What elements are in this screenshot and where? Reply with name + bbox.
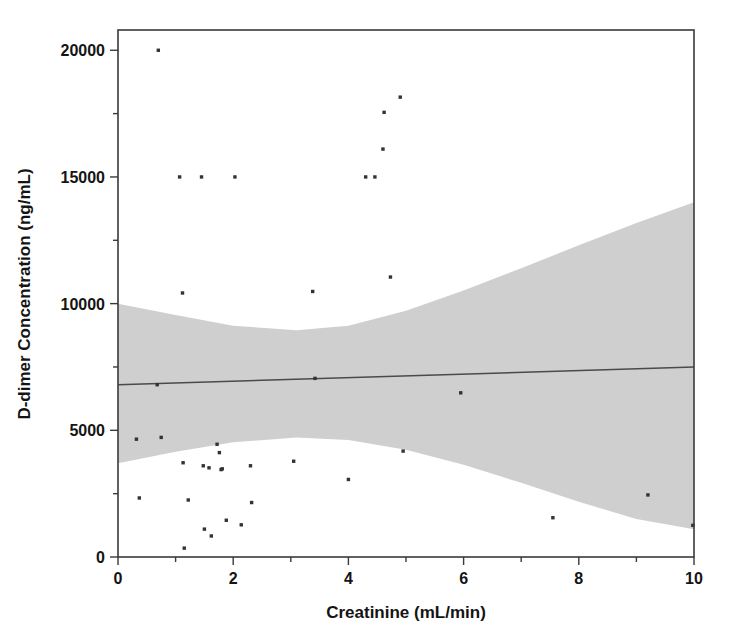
data-point [381,147,384,150]
data-point [160,436,163,439]
data-point [311,290,314,293]
y-axis-tick-labels: 05000100001500020000 [61,42,106,566]
data-point [138,496,141,499]
data-point [646,493,649,496]
data-point [240,523,243,526]
x-tick-label: 8 [574,570,583,587]
data-point [157,49,160,52]
data-point [202,464,205,467]
y-tick-label: 0 [96,549,105,566]
data-point [233,175,236,178]
data-point [364,175,367,178]
x-axis-tick-labels: 0246810 [114,570,703,587]
data-point [373,175,376,178]
y-tick-label: 20000 [61,42,106,59]
y-tick-label: 10000 [61,296,106,313]
data-point [203,527,206,530]
data-point [347,478,350,481]
data-point [181,461,184,464]
data-point [221,467,224,470]
confidence-band [118,202,694,529]
data-point [187,498,190,501]
y-tick-label: 5000 [69,422,105,439]
data-point [210,534,213,537]
data-point [181,291,184,294]
data-point [389,275,392,278]
data-point [459,391,462,394]
y-tick-label: 15000 [61,169,106,186]
x-tick-label: 10 [685,570,703,587]
data-point [382,111,385,114]
confidence-band-group [118,202,694,529]
data-point [178,175,181,178]
data-point [218,451,221,454]
y-axis-ticks [110,50,118,557]
data-point [207,466,210,469]
data-point [313,377,316,380]
data-point [135,437,138,440]
data-point [292,460,295,463]
data-point [215,443,218,446]
x-axis-ticks [118,557,694,565]
x-tick-label: 0 [114,570,123,587]
scatter-plot-figure: 0246810 05000100001500020000 Creatinine … [0,0,731,629]
data-point [249,464,252,467]
data-point [401,449,404,452]
x-tick-label: 6 [459,570,468,587]
data-point [250,501,253,504]
data-point [200,175,203,178]
x-tick-label: 2 [229,570,238,587]
y-axis-title: D-dimer Concentration (ng/mL) [15,168,34,419]
x-tick-label: 4 [344,570,353,587]
data-point [155,383,158,386]
data-point [399,95,402,98]
data-point [551,516,554,519]
data-point [225,519,228,522]
chart-canvas: 0246810 05000100001500020000 Creatinine … [0,0,731,629]
x-axis-title: Creatinine (mL/min) [326,603,486,622]
data-point [183,546,186,549]
